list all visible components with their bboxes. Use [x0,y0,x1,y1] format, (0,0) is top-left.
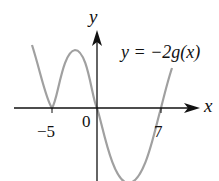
graph-canvas [0,0,219,181]
function-graph: y x y = −2g(x) 0 −5 7 [0,0,219,181]
x-axis-label: x [204,95,212,117]
y-axis-label: y [89,6,97,28]
curve-label: y = −2g(x) [121,42,200,63]
tick-label-neg5: −5 [37,122,55,142]
curve-neg2g [32,45,172,181]
origin-label: 0 [82,112,91,132]
tick-label-7: 7 [154,122,163,142]
